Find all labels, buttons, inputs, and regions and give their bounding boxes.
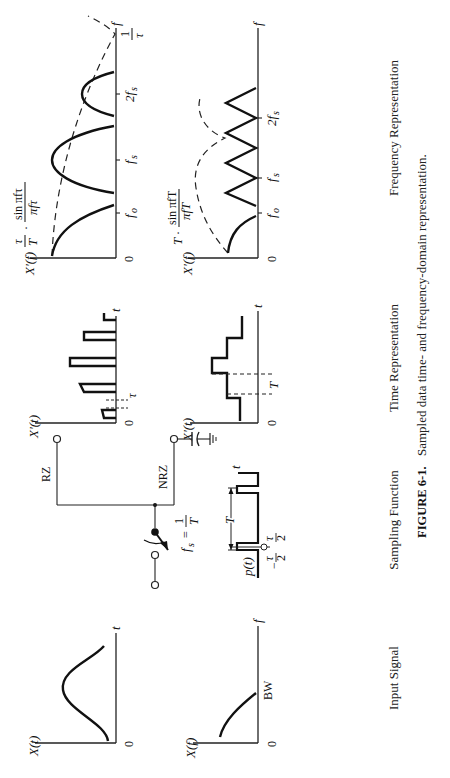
svg-text:2: 2: [274, 555, 288, 561]
nrz-label: NRZ: [156, 465, 170, 489]
svg-text:−: −: [267, 562, 281, 569]
svg-text:=: =: [179, 531, 193, 538]
figure-caption-text: Sampled data time- and frequency-domain …: [414, 154, 429, 456]
period-label: T: [222, 516, 237, 524]
sampling-section: RZ NRZ f s = 1 T T p(t) t − τ: [0, 0, 450, 778]
rz-terminal: [54, 436, 61, 443]
svg-text:1: 1: [172, 518, 186, 524]
caption-time-representation: Time Representation: [386, 303, 401, 412]
svg-text:s: s: [185, 543, 196, 547]
input-terminal: [152, 582, 159, 589]
caption-input-signal: Input Signal: [386, 646, 401, 710]
svg-text:2: 2: [274, 535, 288, 541]
figure-number: FIGURE 6-1.: [415, 466, 429, 538]
svg-text:T: T: [186, 517, 201, 525]
pulse-label: p(t): [240, 557, 255, 577]
caption-frequency-representation: Frequency Representation: [386, 59, 401, 196]
caption-sampling-function: Sampling Function: [386, 470, 401, 570]
figure-caption: FIGURE 6-1. Sampled data time- and frequ…: [414, 154, 429, 538]
rz-label: RZ: [39, 467, 53, 482]
hold-capacitor-icon: [178, 432, 216, 446]
pulse-time-axis: t: [228, 465, 243, 469]
nrz-terminal: [171, 436, 178, 443]
switch-contact: [152, 552, 159, 559]
